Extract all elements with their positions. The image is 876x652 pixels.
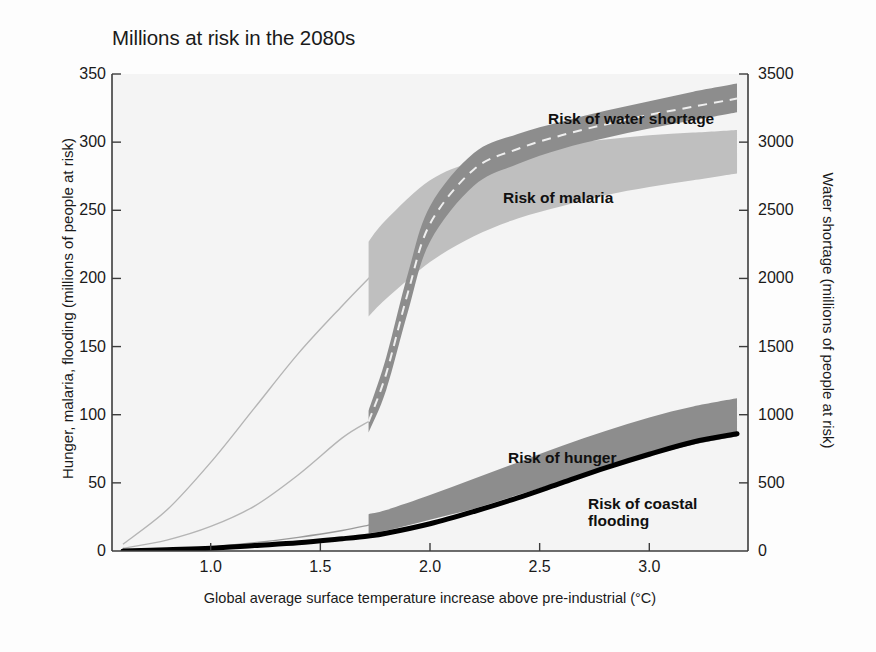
series-label-coastal-flooding: Risk of coastal flooding [588, 495, 697, 530]
series-label-water-shortage: Risk of water shortage [548, 110, 714, 127]
series-label-malaria: Risk of malaria [503, 189, 613, 206]
chart-figure: Millions at risk in the 2080s Hunger, ma… [0, 0, 876, 652]
plot-area [0, 0, 876, 652]
series-label-hunger: Risk of hunger [508, 449, 617, 466]
